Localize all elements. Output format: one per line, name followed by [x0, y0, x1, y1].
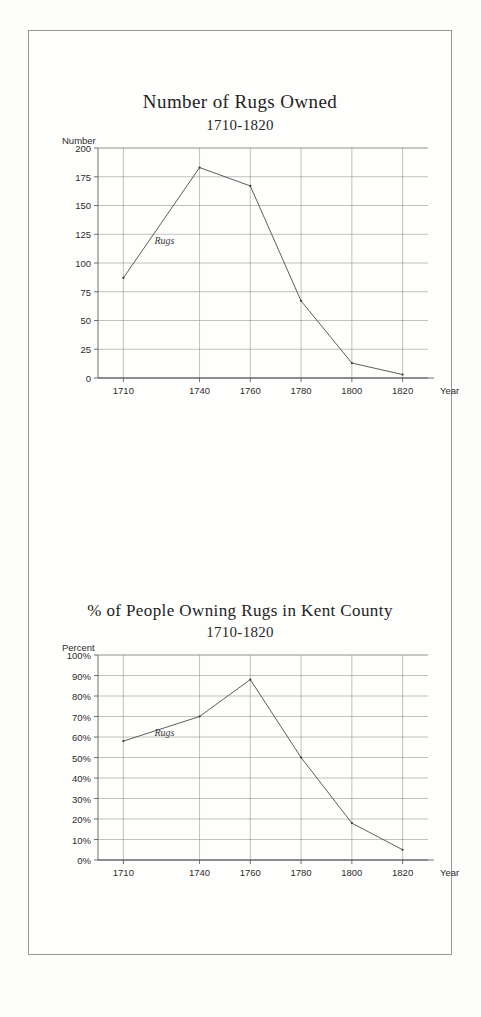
y-tick-label: 25 [80, 344, 91, 355]
figure-percent-owning: % of People Owning Rugs in Kent County 1… [28, 600, 452, 925]
x-axis-title: Year [440, 867, 459, 878]
x-tick-label: 1780 [290, 385, 311, 396]
series-label-rugs: Rugs [155, 727, 175, 738]
x-tick-label: 1820 [392, 385, 413, 396]
x-tick-label: 1820 [392, 867, 413, 878]
y-tick-label: 100% [67, 650, 91, 661]
y-tick-label: 30% [72, 793, 91, 804]
chart-title: % of People Owning Rugs in Kent County [28, 600, 452, 621]
y-tick-label: 10% [72, 834, 91, 845]
plot-area-rugs-owned: Number Year Rugs 02550751001251501752001… [28, 140, 452, 410]
y-tick-label: 100 [75, 257, 91, 268]
y-tick-label: 80% [72, 691, 91, 702]
x-tick-label: 1710 [113, 385, 134, 396]
y-tick-label: 0% [77, 855, 91, 866]
y-tick-label: 90% [72, 670, 91, 681]
x-tick-label: 1760 [240, 867, 261, 878]
y-tick-label: 200 [75, 142, 91, 153]
y-tick-label: 50 [80, 315, 91, 326]
y-tick-label: 60% [72, 732, 91, 743]
y-tick-label: 50% [72, 752, 91, 763]
x-tick-label: 1800 [341, 867, 362, 878]
x-axis-title: Year [440, 385, 459, 396]
series-label-rugs: Rugs [155, 235, 175, 246]
plot-area-percent-owning: Percent Year Rugs 0%10%20%30%40%50%60%70… [28, 647, 452, 892]
line-chart-svg-rugs-owned [28, 140, 452, 410]
y-tick-label: 20% [72, 814, 91, 825]
x-tick-label: 1800 [341, 385, 362, 396]
x-tick-label: 1740 [189, 385, 210, 396]
y-tick-label: 175 [75, 171, 91, 182]
y-tick-label: 75 [80, 286, 91, 297]
page: Number of Rugs Owned 1710-1820 Number Ye… [0, 0, 481, 1017]
y-tick-label: 0 [86, 372, 91, 383]
chart-subtitle: 1710-1820 [28, 117, 452, 134]
y-tick-label: 70% [72, 711, 91, 722]
line-chart-svg-percent-owning [28, 647, 452, 892]
x-tick-label: 1710 [113, 867, 134, 878]
figure-rugs-owned: Number of Rugs Owned 1710-1820 Number Ye… [28, 90, 452, 450]
y-tick-label: 150 [75, 200, 91, 211]
y-tick-label: 40% [72, 773, 91, 784]
x-tick-label: 1780 [290, 867, 311, 878]
x-tick-label: 1740 [189, 867, 210, 878]
y-tick-label: 125 [75, 229, 91, 240]
chart-subtitle: 1710-1820 [28, 624, 452, 641]
x-tick-label: 1760 [240, 385, 261, 396]
chart-title: Number of Rugs Owned [28, 90, 452, 114]
